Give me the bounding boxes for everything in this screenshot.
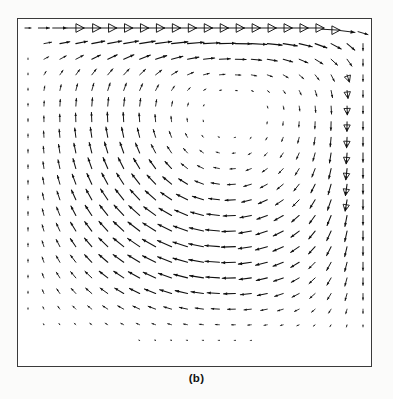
velocity-vector-field: [18, 19, 372, 367]
vector-field-figure: (b): [0, 0, 393, 399]
figure-caption: (b): [0, 372, 393, 384]
cavity-plot-frame: [17, 18, 372, 367]
